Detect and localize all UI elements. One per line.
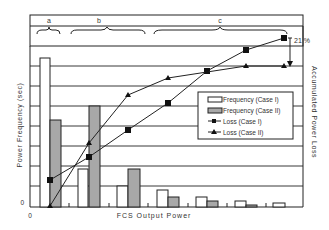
region-label-b: b	[97, 17, 101, 24]
y-axis-label-left: Power Frequency (sec)	[16, 83, 24, 168]
x-zero-label: 0	[28, 212, 32, 219]
chart-canvas: a b c	[0, 0, 329, 230]
brace-a	[37, 27, 60, 34]
reduction-label: 21 %	[294, 37, 310, 44]
reduction-annotation: 21 %	[287, 37, 310, 67]
region-header: a b c	[30, 15, 303, 46]
legend-label-loss-1: Loss (Case I)	[223, 118, 262, 126]
brace-b	[71, 27, 145, 34]
y-zero-label: 0	[20, 199, 24, 206]
legend-label-freq-1: Frequency (Case I)	[223, 96, 279, 104]
legend-label-freq-2: Frequency (Case II)	[223, 107, 280, 115]
y-axis-label-right: Accumulated Power Loss	[311, 66, 318, 158]
x-axis-label: FCS Output Power	[117, 212, 192, 220]
legend: Frequency (Case I) Frequency (Case II) L…	[198, 92, 293, 139]
legend-swatch-gray	[208, 108, 222, 113]
brace-c	[154, 27, 287, 34]
legend-label-loss-2: Loss (Case II)	[223, 129, 263, 137]
legend-swatch-white	[208, 97, 222, 102]
legend-square-marker-icon	[212, 119, 216, 123]
region-label-a: a	[47, 17, 51, 24]
region-label-c: c	[218, 17, 222, 24]
